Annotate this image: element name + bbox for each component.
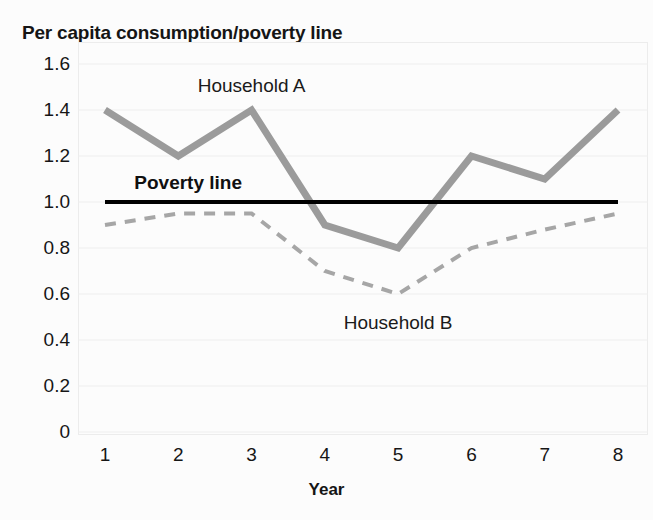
poverty-line-label: Poverty line: [134, 172, 242, 194]
x-axis-title: Year: [0, 480, 653, 500]
series-line-household-b: [105, 214, 618, 295]
series-label: Household A: [198, 75, 306, 97]
chart-container: Per capita consumption/poverty line 1.61…: [0, 0, 653, 520]
series-label: Household B: [344, 312, 453, 334]
chart-plot: [0, 0, 653, 520]
